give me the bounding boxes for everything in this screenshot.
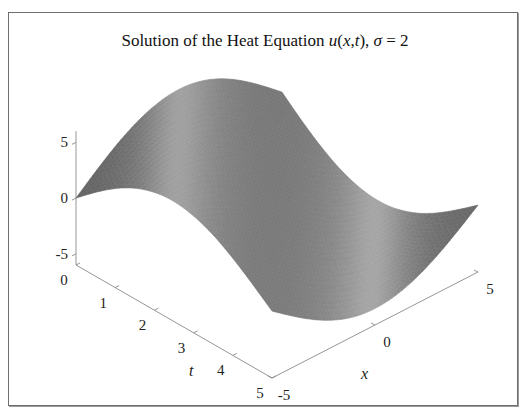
t-axis-label: t xyxy=(189,362,194,379)
t-tick-mark xyxy=(233,353,237,355)
x-tick-mark xyxy=(371,323,375,325)
x-tick-mark xyxy=(474,270,478,272)
t-tick-label: 3 xyxy=(178,340,186,356)
x-tick-label: 5 xyxy=(486,281,494,297)
x-tick-mark xyxy=(268,376,272,378)
t-tick-mark xyxy=(272,376,276,378)
t-tick-mark xyxy=(115,286,119,288)
x-axis-label: x xyxy=(360,365,368,382)
surface-mesh xyxy=(76,79,478,320)
t-tick-label: 5 xyxy=(256,385,264,401)
title-args: (x,t) xyxy=(337,31,365,50)
z-tick-label: 5 xyxy=(61,134,69,150)
t-tick-mark xyxy=(194,331,198,333)
surface-plot: Solution of the Heat Equation u(x,t), σ … xyxy=(0,0,531,412)
z-tick-mark xyxy=(72,198,76,200)
x-tick-label: 0 xyxy=(383,334,391,350)
t-tick-label: 0 xyxy=(60,272,68,288)
chart-title: Solution of the Heat Equation u(x,t), σ … xyxy=(121,31,408,50)
t-axis-line xyxy=(76,265,272,378)
t-tick-label: 2 xyxy=(139,317,147,333)
t-tick-mark xyxy=(154,308,158,310)
t-tick-label: 4 xyxy=(217,362,225,378)
t-tick-label: 1 xyxy=(99,295,107,311)
t-tick-mark xyxy=(76,263,80,265)
z-tick-mark xyxy=(72,142,76,144)
z-tick-label: -5 xyxy=(56,246,69,262)
z-tick-mark xyxy=(72,254,76,256)
z-tick-label: 0 xyxy=(61,190,69,206)
x-tick-label: -5 xyxy=(278,387,291,403)
